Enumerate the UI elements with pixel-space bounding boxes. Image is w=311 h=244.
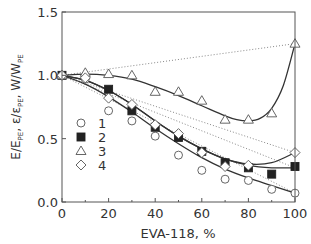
- y-tick-label: 0.5: [37, 132, 58, 147]
- x-axis-title: EVA-118, %: [140, 226, 215, 241]
- chart: 020406080100 0.00.51.01.5 EVA-118, % E/E…: [0, 0, 311, 244]
- data-point-series-1: [128, 117, 136, 125]
- data-point-series-3: [174, 87, 184, 96]
- data-point-series-1: [151, 132, 159, 140]
- legend: 1234: [76, 116, 106, 173]
- legend-marker-2: [77, 133, 85, 141]
- x-tick-label: 0: [58, 206, 66, 221]
- data-point-series-2: [105, 85, 113, 93]
- data-point-series-1: [105, 107, 113, 115]
- x-tick-label: 80: [240, 206, 257, 221]
- data-point-series-1: [244, 176, 252, 184]
- y-tick-label: 1.5: [37, 5, 58, 20]
- x-tick-label: 100: [283, 206, 308, 221]
- x-tick-label: 40: [147, 206, 164, 221]
- data-point-series-3: [220, 115, 230, 124]
- y-axis-title: E/EPE, ε/εPE, W/WPE: [9, 54, 25, 159]
- data-point-series-3: [104, 69, 114, 78]
- legend-marker-4: [76, 160, 86, 170]
- data-point-series-1: [175, 151, 183, 159]
- data-point-series-1: [221, 175, 229, 183]
- legend-label: 1: [98, 116, 106, 131]
- legend-label: 4: [98, 158, 106, 173]
- x-tick-label: 20: [100, 206, 117, 221]
- data-point-series-3: [243, 115, 253, 124]
- x-axis-ticks: 020406080100: [58, 198, 308, 221]
- data-point-series-2: [268, 170, 276, 178]
- legend-label: 2: [98, 130, 106, 145]
- legend-label: 3: [98, 144, 106, 159]
- data-point-series-1: [198, 166, 206, 174]
- y-tick-label: 1.0: [37, 68, 58, 83]
- data-point-series-3: [197, 96, 207, 105]
- data-point-series-1: [268, 185, 276, 193]
- legend-marker-3: [76, 146, 86, 155]
- fit-curve-3: [62, 44, 295, 121]
- data-markers: [57, 39, 300, 197]
- plot-frame: [62, 12, 295, 202]
- y-tick-label: 0.0: [37, 195, 58, 210]
- x-tick-label: 60: [194, 206, 211, 221]
- legend-marker-1: [77, 119, 85, 127]
- additive-line-3: [62, 44, 295, 76]
- data-point-series-3: [127, 70, 137, 79]
- fit-curves: [62, 44, 295, 193]
